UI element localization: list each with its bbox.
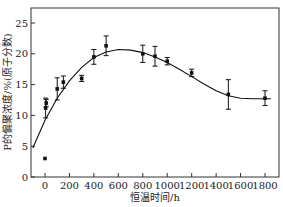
data-point xyxy=(55,78,60,100)
y-tick-label: 20 xyxy=(15,48,28,59)
x-tick-label: 1000 xyxy=(154,180,179,191)
x-tick-label: 200 xyxy=(60,180,79,191)
y-tick-label: 25 xyxy=(15,18,28,29)
data-point xyxy=(79,75,84,81)
chart: 0510152025 02004006008001000120014001600… xyxy=(0,0,283,207)
x-tick-label: 0 xyxy=(42,180,48,191)
x-axis-ticks: 020040060080010001200140016001800 xyxy=(42,173,278,191)
x-tick-label: 1800 xyxy=(252,180,277,191)
data-point xyxy=(44,99,49,106)
data-point xyxy=(43,157,47,161)
data-point xyxy=(263,91,268,106)
y-tick-label: 0 xyxy=(22,172,28,183)
x-axis-label: 恒温时间/h xyxy=(130,191,180,203)
data-points xyxy=(43,36,267,160)
x-tick-label: 1400 xyxy=(203,180,228,191)
y-axis-label: P的偏聚浓度/%(原子分数) xyxy=(1,33,13,151)
y-tick-label: 10 xyxy=(15,110,28,121)
x-tick-label: 1600 xyxy=(228,180,253,191)
x-tick-label: 800 xyxy=(133,180,152,191)
x-tick-label: 400 xyxy=(84,180,103,191)
plot-frame xyxy=(31,8,279,177)
y-tick-label: 15 xyxy=(15,79,28,90)
y-axis-ticks: 0510152025 xyxy=(15,18,35,183)
fit-curve xyxy=(33,50,271,149)
y-tick-label: 5 xyxy=(22,141,28,152)
data-point xyxy=(153,46,158,66)
data-point xyxy=(226,80,231,110)
data-point xyxy=(140,45,145,62)
x-tick-label: 600 xyxy=(109,180,128,191)
data-point xyxy=(91,49,96,64)
x-tick-label: 1200 xyxy=(179,180,204,191)
